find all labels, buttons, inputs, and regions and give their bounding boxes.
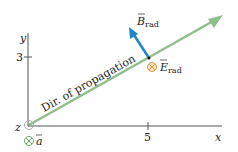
z-axis-label: z: [14, 121, 21, 134]
y-axis-label: y: [19, 32, 27, 45]
propagation-label: Dir. of propagation: [39, 52, 137, 114]
e-field-label: Erad: [159, 61, 182, 75]
field-point: [148, 57, 151, 60]
b-field-arrow: [134, 35, 149, 58]
diagram-canvas: y 3 5 x z Dir. of propagation Brad Erad …: [0, 0, 238, 152]
b-field-label: Brad: [136, 15, 159, 29]
y-tick-label: 3: [16, 51, 23, 64]
acceleration-label: a: [36, 135, 43, 148]
propagation-line: [29, 20, 215, 125]
x-axis-label: x: [215, 131, 222, 144]
x-tick-label: 5: [144, 131, 151, 144]
propagation-arrowhead: [208, 15, 223, 28]
